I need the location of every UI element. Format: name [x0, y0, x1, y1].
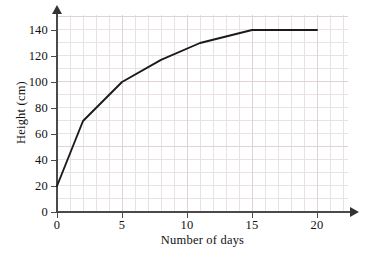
y-tick-label-80: 80 — [35, 102, 48, 114]
x-axis-line — [56, 211, 352, 213]
y-tick-60 — [51, 134, 57, 135]
y-tick-label-0: 0 — [42, 206, 48, 218]
y-tick-20 — [51, 186, 57, 187]
y-tick-120 — [51, 56, 57, 57]
x-tick-label-15: 15 — [237, 219, 267, 231]
y-axis-arrow-icon — [52, 5, 62, 14]
y-tick-label-40: 40 — [35, 154, 48, 166]
y-tick-40 — [51, 160, 57, 161]
y-tick-label-20: 20 — [35, 180, 48, 192]
y-axis-title: Height (cm) — [14, 53, 29, 173]
y-tick-label-60: 60 — [35, 128, 48, 140]
plot-grid-major — [57, 15, 348, 212]
x-tick-label-20: 20 — [302, 219, 332, 231]
x-tick-label-5: 5 — [107, 219, 137, 231]
y-tick-100 — [51, 82, 57, 83]
y-tick-140 — [51, 30, 57, 31]
x-axis-arrow-icon — [350, 207, 359, 217]
y-tick-80 — [51, 108, 57, 109]
y-tick-label-100: 100 — [29, 76, 48, 88]
y-tick-label-140: 140 — [29, 24, 48, 36]
x-tick-label-0: 0 — [42, 219, 72, 231]
x-tick-label-10: 10 — [172, 219, 202, 231]
x-axis-title: Number of days — [57, 233, 348, 248]
line-chart-figure: 140 120 100 80 60 40 20 0 0 5 10 15 20 H… — [0, 0, 371, 253]
y-axis-line — [56, 12, 58, 213]
y-tick-label-120: 120 — [29, 50, 48, 62]
